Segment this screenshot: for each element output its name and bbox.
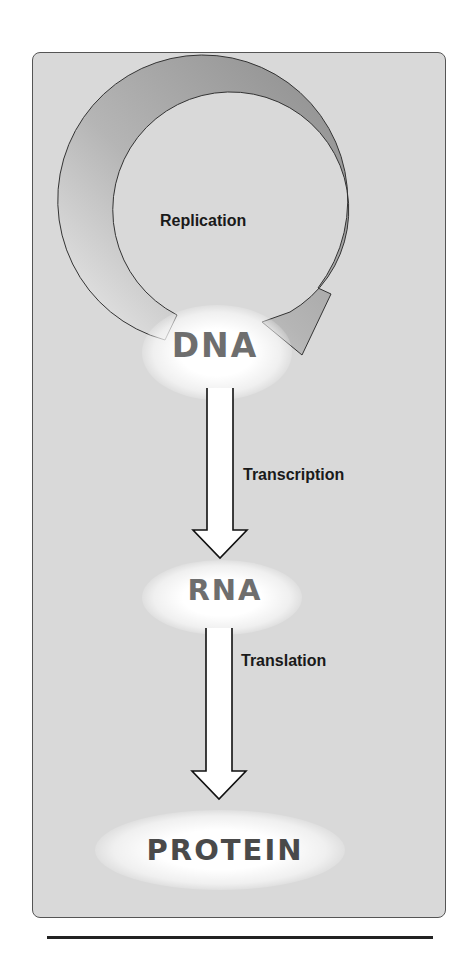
protein-node: PROTEIN [120,833,330,867]
translation-label: Translation [241,652,326,670]
bottom-rule-divider [47,936,433,939]
